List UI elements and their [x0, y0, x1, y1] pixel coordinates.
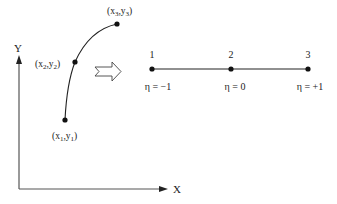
curve-point-3-label: (x3,y3) — [107, 6, 132, 18]
y-axis-label: Y — [14, 42, 22, 54]
x-axis-label: X — [173, 183, 181, 195]
node-2-number: 2 — [229, 49, 234, 60]
curve-point-1 — [62, 117, 67, 122]
isoparametric-mapping-diagram: Y X (x1,y1) (x2,y2) (x3,y3) 1 2 3 η = −1… — [0, 0, 337, 204]
node-2 — [228, 66, 233, 71]
curve-point-2-label: (x2,y2) — [35, 59, 60, 71]
node-3-number: 3 — [306, 49, 311, 60]
curve-point-1-label: (x1,y1) — [52, 131, 77, 143]
curve-point-2 — [72, 59, 77, 64]
reference-element: 1 2 3 η = −1 η = 0 η = +1 — [145, 49, 324, 92]
curve-point-3 — [114, 21, 119, 26]
y-axis-arrowhead-icon — [16, 55, 22, 64]
node-1-eta: η = −1 — [145, 81, 172, 92]
node-1-number: 1 — [150, 49, 155, 60]
block-arrow-right-icon — [95, 62, 121, 81]
node-2-eta: η = 0 — [225, 81, 246, 92]
x-axis-arrowhead-icon — [159, 186, 168, 192]
node-3 — [305, 66, 310, 71]
node-1 — [149, 66, 154, 71]
diagram-svg: Y X (x1,y1) (x2,y2) (x3,y3) 1 2 3 η = −1… — [0, 0, 337, 204]
node-3-eta: η = +1 — [297, 81, 324, 92]
